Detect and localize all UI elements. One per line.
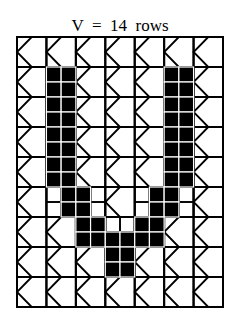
small-cell-outline [91,202,106,217]
filled-pixel [61,202,76,217]
filled-pixel [179,172,194,187]
block-outline [17,127,46,157]
filled-pixel [76,232,91,247]
filled-pixel [46,172,61,187]
block-outline [164,37,193,67]
block-outline [194,187,223,217]
zigzag-line [135,97,150,127]
filled-pixel [164,157,179,172]
filled-pixel [61,127,76,142]
zigzag-line [164,247,179,277]
filled-pixel [105,262,120,277]
block-outline [17,247,46,277]
small-cell-outline [120,217,135,232]
pixel-grid-v [0,0,237,326]
block-outline [17,37,46,67]
zigzag-line [17,37,32,67]
zigzag-line [76,127,91,157]
zigzag-line [17,67,32,97]
block-outline [194,157,223,187]
zigzag-line [46,217,61,247]
filled-pixel [164,172,179,187]
filled-pixel [135,217,150,232]
filled-pixel [149,217,164,232]
zigzag-line [46,37,61,67]
block-outline [76,277,105,307]
block-outline [76,37,105,67]
block-outline [135,97,164,127]
filled-pixel [61,82,76,97]
block-outline [105,277,134,307]
zigzag-line [194,127,209,157]
block-outline [17,277,46,307]
block-outline [76,157,105,187]
block-outline [135,157,164,187]
zigzag-line [194,67,209,97]
zigzag-line [135,247,150,277]
filled-pixel [91,232,106,247]
filled-pixel [61,112,76,127]
block-outline [105,127,134,157]
filled-pixel [164,82,179,97]
filled-pixel [179,97,194,112]
block-outline [17,67,46,97]
filled-pixel [46,67,61,82]
filled-pixel [135,232,150,247]
block-outline [76,67,105,97]
zigzag-line [17,97,32,127]
filled-pixel [179,127,194,142]
block-outline [76,247,105,277]
filled-pixel [46,127,61,142]
zigzag-line [194,37,209,67]
block-outline [194,67,223,97]
filled-pixel [149,202,164,217]
filled-pixel [120,262,135,277]
filled-pixel [120,232,135,247]
filled-pixel [61,67,76,82]
zigzag-line [76,67,91,97]
filled-pixel [76,217,91,232]
zigzag-line [105,157,120,187]
block-outline [46,247,75,277]
block-outline [194,97,223,127]
small-cell-outline [179,202,194,217]
filled-pixel [179,67,194,82]
block-outline [17,157,46,187]
block-outline [76,97,105,127]
block-outline [164,277,193,307]
filled-pixel [120,247,135,262]
filled-pixel [46,142,61,157]
small-cell-outline [46,187,61,202]
zigzag-line [17,247,32,277]
zigzag-line [194,247,209,277]
zigzag-line [105,37,120,67]
zigzag-line [135,37,150,67]
block-outline [194,127,223,157]
zigzag-line [194,277,209,307]
filled-pixel [105,232,120,247]
zigzag-line [76,157,91,187]
zigzag-line [105,277,120,307]
filled-pixel [105,247,120,262]
zigzag-line [76,277,91,307]
zigzag-line [164,277,179,307]
zigzag-line [76,247,91,277]
filled-pixel [46,82,61,97]
filled-pixel [164,127,179,142]
block-outline [135,277,164,307]
filled-pixel [164,112,179,127]
filled-pixel [46,97,61,112]
zigzag-line [17,277,32,307]
zigzag-line [164,37,179,67]
zigzag-line [194,187,209,217]
block-outline [46,37,75,67]
filled-pixel [91,217,106,232]
filled-pixel [46,157,61,172]
zigzag-line [194,157,209,187]
block-outline [135,247,164,277]
filled-pixel [149,187,164,202]
zigzag-line [46,247,61,277]
filled-pixel [76,187,91,202]
block-outline [46,217,75,247]
zigzag-line [105,67,120,97]
